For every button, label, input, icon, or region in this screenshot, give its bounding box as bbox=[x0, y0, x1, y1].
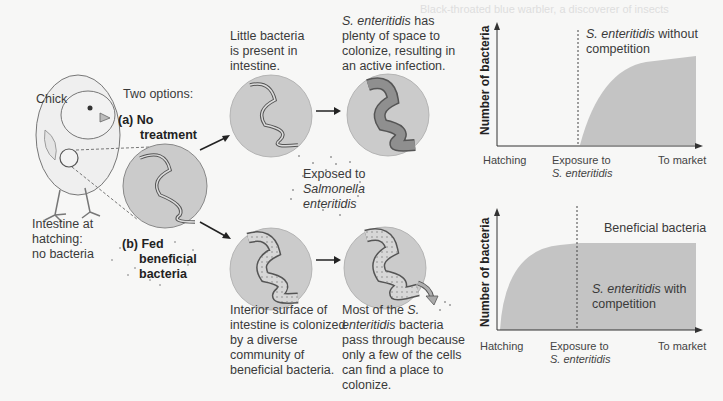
caption-line: can find a place to bbox=[342, 363, 443, 377]
tick-line: Exposure to bbox=[552, 154, 611, 166]
intestine-circle-little-bacteria bbox=[230, 75, 312, 157]
two-options-label: Two options: bbox=[123, 87, 193, 102]
caption-line: colonize, resulting in bbox=[342, 44, 455, 58]
tick-line: Exposure to bbox=[550, 340, 609, 352]
caption-line: has bbox=[411, 14, 435, 28]
intestine-label-line2: hatching: bbox=[32, 232, 83, 246]
caption-pass-through: Most of the S. enteritidis bacteria pass… bbox=[342, 303, 465, 393]
chart1-label-rest: without bbox=[655, 27, 698, 41]
caption-line: community of bbox=[230, 348, 304, 362]
caption-active-infection: S. enteritidis has plenty of space to co… bbox=[342, 14, 455, 74]
caption-beneficial-colonized: Interior surface of intestine is coloniz… bbox=[230, 303, 345, 378]
caption-line: Most of the bbox=[342, 303, 407, 317]
chart1-label-line2: competition bbox=[586, 42, 650, 56]
caption-italic: S. enteritidis bbox=[342, 14, 411, 28]
option-a-label: (a) No treatment bbox=[118, 113, 197, 143]
chart2-x-tick-exposure: Exposure to S. enteritidis bbox=[550, 340, 611, 366]
chart1-x-tick-hatching: Hatching bbox=[483, 154, 526, 167]
caption-little-bacteria: Little bacteria is present in intestine. bbox=[230, 29, 304, 74]
chart1-x-tick-market: To market bbox=[658, 154, 706, 167]
option-b-line1: Fed bbox=[141, 237, 163, 251]
tick-italic: S. enteritidis bbox=[550, 353, 611, 365]
caption-line: beneficial bacteria. bbox=[230, 363, 334, 377]
caption-line: intestine. bbox=[230, 59, 280, 73]
caption-line: only a few of the cells bbox=[342, 348, 462, 362]
caption-italic: S. bbox=[407, 303, 419, 317]
caption-line: an active infection. bbox=[342, 59, 446, 73]
caption-italic: Salmonella bbox=[303, 182, 365, 196]
caption-line: bacteria bbox=[396, 318, 444, 332]
chart2-label-italic: S. enteritidis bbox=[592, 282, 661, 296]
caption-line: intestine is colonized bbox=[230, 318, 345, 332]
option-b-prefix: (b) bbox=[122, 237, 138, 251]
option-a-prefix: (a) bbox=[118, 113, 133, 127]
chart2-label-line2: competition bbox=[592, 297, 656, 311]
intestine-label-line3: no bacteria bbox=[32, 247, 94, 261]
chart2-se-label: S. enteritidis with competition bbox=[592, 282, 686, 312]
intestine-circle-hatching bbox=[123, 144, 207, 228]
caption-line: Interior surface of bbox=[230, 303, 327, 317]
caption-line: Little bacteria bbox=[230, 29, 304, 43]
intestine-circle-beneficial bbox=[230, 228, 312, 310]
caption-line: pass through because bbox=[342, 333, 465, 347]
chart2-x-tick-market: To market bbox=[658, 340, 706, 353]
chart1-series-label: S. enteritidis without competition bbox=[586, 27, 698, 57]
intestine-circle-pass-through bbox=[344, 227, 438, 309]
option-a-line1: No bbox=[137, 113, 154, 127]
intestine-circle-infected bbox=[347, 74, 429, 156]
intestine-label-line1: Intestine at bbox=[32, 217, 93, 231]
chart1-y-axis-label: Number of bacteria bbox=[478, 26, 492, 135]
caption-exposed: Exposed to Salmonella enteritidis bbox=[303, 167, 366, 212]
tick-italic: S. enteritidis bbox=[552, 167, 613, 179]
chart1-x-tick-exposure: Exposure to S. enteritidis bbox=[552, 154, 613, 180]
option-a-line2: treatment bbox=[118, 128, 197, 142]
caption-line: is present in bbox=[230, 44, 297, 58]
option-b-line3: bacteria bbox=[122, 267, 187, 281]
chart1-label-italic: S. enteritidis bbox=[586, 27, 655, 41]
chart2-beneficial-label: Beneficial bacteria bbox=[604, 221, 706, 236]
chick-label: Chick bbox=[36, 92, 67, 107]
caption-italic: enteritidis bbox=[342, 318, 396, 332]
intestine-at-hatching-label: Intestine at hatching: no bacteria bbox=[32, 217, 94, 262]
chart2-label-rest: with bbox=[661, 282, 687, 296]
caption-italic: enteritidis bbox=[303, 197, 357, 211]
chart2-x-tick-hatching: Hatching bbox=[480, 340, 523, 353]
caption-line: Exposed to bbox=[303, 167, 366, 181]
option-b-label: (b) Fed beneficial bacteria bbox=[122, 237, 197, 282]
option-b-line2: beneficial bbox=[122, 252, 197, 266]
caption-line: by a diverse bbox=[230, 333, 297, 347]
chart2-y-axis-label: Number of bacteria bbox=[478, 218, 492, 327]
caption-line: plenty of space to bbox=[342, 29, 440, 43]
caption-line: colonize. bbox=[342, 378, 391, 392]
